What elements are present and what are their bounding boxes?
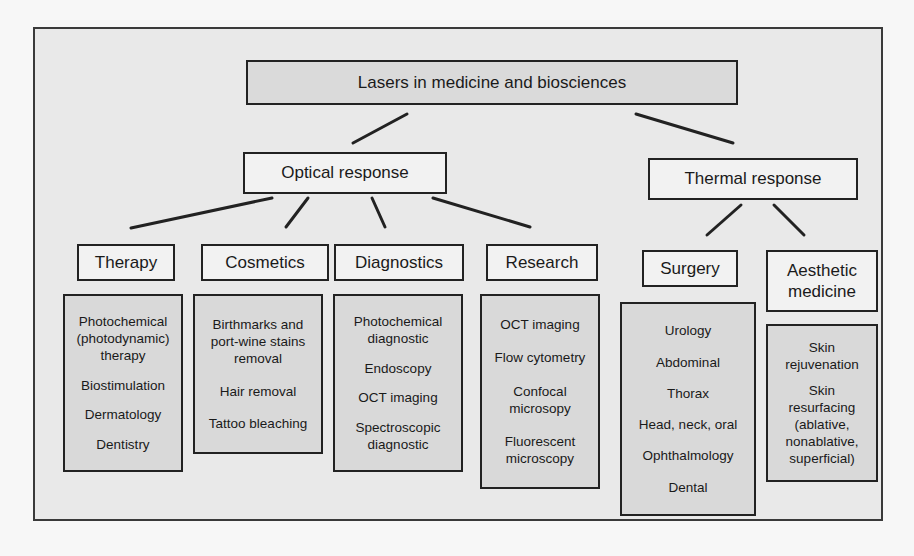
detail-cosmetics: Birthmarks and port-wine stains removal …: [193, 294, 323, 454]
node-diagnostics: Diagnostics: [334, 244, 464, 281]
root-node: Lasers in medicine and biosciences: [246, 60, 738, 105]
detail-item: Dermatology: [85, 406, 162, 423]
aesthetic-medicine-label: Aesthetic medicine: [774, 260, 870, 302]
detail-item: Ophthalmology: [643, 447, 734, 464]
detail-item: Thorax: [667, 385, 709, 402]
thermal-response-label: Thermal response: [684, 169, 821, 189]
detail-item: OCT imaging: [500, 316, 579, 333]
node-cosmetics: Cosmetics: [201, 244, 329, 281]
detail-item: Biostimulation: [81, 377, 165, 394]
cosmetics-label: Cosmetics: [225, 252, 304, 273]
detail-research: OCT imaging Flow cytometry Confocal micr…: [480, 294, 600, 489]
diagnostics-label: Diagnostics: [355, 252, 443, 273]
node-surgery: Surgery: [642, 250, 738, 287]
detail-item: Endoscopy: [365, 360, 432, 377]
detail-item: Abdominal: [656, 354, 720, 371]
node-thermal-response: Thermal response: [648, 158, 858, 200]
detail-item: Photochemical (photodynamic) therapy: [67, 313, 179, 364]
detail-item: Dental: [668, 479, 707, 496]
optical-response-label: Optical response: [281, 163, 409, 183]
detail-item: Head, neck, oral: [639, 416, 737, 433]
detail-item: Photochemical diagnostic: [337, 313, 459, 347]
node-therapy: Therapy: [77, 244, 175, 281]
node-aesthetic-medicine: Aesthetic medicine: [766, 250, 878, 312]
detail-diagnostics: Photochemical diagnostic Endoscopy OCT i…: [333, 294, 463, 472]
detail-item: Urology: [665, 322, 712, 339]
detail-item: OCT imaging: [358, 389, 437, 406]
detail-surgery: Urology Abdominal Thorax Head, neck, ora…: [620, 302, 756, 516]
surgery-label: Surgery: [660, 258, 720, 279]
detail-item: Flow cytometry: [495, 349, 586, 366]
node-research: Research: [486, 244, 598, 281]
therapy-label: Therapy: [95, 252, 157, 273]
detail-item: Skin resurfacing (ablative, nonablative,…: [774, 382, 870, 467]
detail-therapy: Photochemical (photodynamic) therapy Bio…: [63, 294, 183, 472]
detail-item: Hair removal: [220, 383, 297, 400]
node-optical-response: Optical response: [243, 152, 447, 194]
detail-item: Confocal microsopy: [484, 383, 596, 417]
detail-item: Tattoo bleaching: [209, 415, 307, 432]
detail-item: Birthmarks and port-wine stains removal: [197, 316, 319, 367]
detail-item: Fluorescent microscopy: [484, 433, 596, 467]
detail-item: Spectroscopic diagnostic: [337, 419, 459, 453]
research-label: Research: [506, 252, 579, 273]
detail-item: Skin rejuvenation: [774, 339, 870, 373]
root-label: Lasers in medicine and biosciences: [358, 73, 626, 93]
detail-aesthetic-medicine: Skin rejuvenation Skin resurfacing (abla…: [766, 324, 878, 482]
detail-item: Dentistry: [96, 436, 149, 453]
